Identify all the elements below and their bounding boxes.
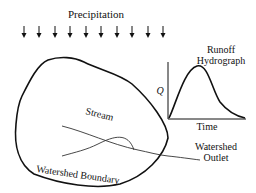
rain-arrow-icon (37, 26, 42, 38)
rain-arrow-icon (130, 26, 135, 38)
rain-arrow-icon (68, 26, 73, 38)
rain-arrow-icon (161, 26, 166, 38)
hydrograph-title-line1: Runoff (207, 44, 236, 55)
outlet-label-line1: Watershed (195, 141, 237, 152)
boundary-label: Watershed Boundary (36, 163, 121, 186)
rain-arrow-icon (99, 26, 104, 38)
stream-network (62, 126, 200, 160)
rain-arrow-icon (84, 26, 89, 38)
rain-arrows (22, 26, 166, 38)
hydrograph-y-label: Q (156, 85, 164, 96)
runoff-hydrograph: Runoff Hydrograph Q Time (156, 44, 246, 132)
hydrograph-x-label: Time (197, 121, 218, 132)
outlet-label-line2: Outlet (204, 152, 229, 163)
rain-arrow-icon (53, 26, 58, 38)
watershed-diagram: Precipitation Stream Watershed Boundary … (0, 0, 256, 193)
hydrograph-title-line2: Hydrograph (197, 55, 245, 66)
stream-tributary (62, 137, 134, 156)
hydrograph-curve (169, 66, 245, 118)
rain-arrow-icon (115, 26, 120, 38)
rain-arrow-icon (146, 26, 151, 38)
stream-label: Stream (85, 105, 115, 123)
precipitation-label: Precipitation (68, 8, 125, 20)
rain-arrow-icon (22, 26, 27, 38)
